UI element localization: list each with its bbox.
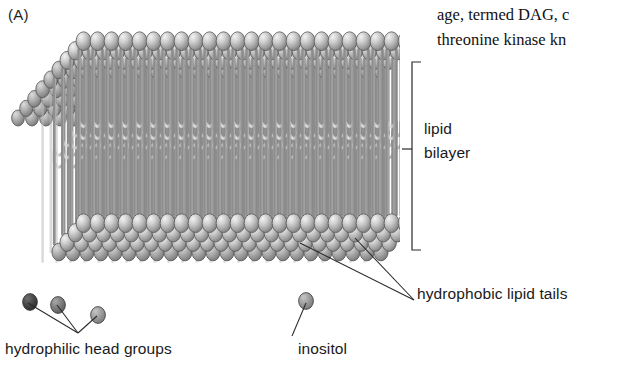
lipid-bilayer-bracket xyxy=(412,62,421,250)
label-hydrophobic-lipid-tails: hydrophobic lipid tails xyxy=(417,285,568,303)
label-lipid-bilayer: lipid bilayer xyxy=(424,117,470,165)
lipid-bilayer-illustration xyxy=(0,0,640,369)
head-group-inositol-left xyxy=(91,307,106,324)
label-hydrophilic-head-groups: hydrophilic head groups xyxy=(5,340,172,358)
heads-leader-light xyxy=(78,316,97,333)
heads-leader-mid xyxy=(57,305,78,333)
head-group-dark-2 xyxy=(51,297,66,314)
label-lipid-bilayer-line2: bilayer xyxy=(424,141,470,165)
label-lipid-bilayer-line1: lipid xyxy=(424,117,470,141)
figure-canvas: (A) age, termed DAG, c threonine kinase … xyxy=(0,0,640,369)
head-group-inositol xyxy=(299,293,314,310)
label-inositol: inositol xyxy=(298,340,347,358)
inositol-leader xyxy=(292,303,306,336)
